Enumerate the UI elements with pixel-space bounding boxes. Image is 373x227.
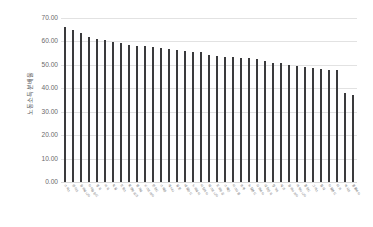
- x-label-slot: 리투아니아: [293, 183, 301, 225]
- x-label-slot: 독일: [109, 183, 117, 225]
- bar: [128, 45, 130, 182]
- bar-chart: 노동소득분배율 0.0010.0020.0030.0040.0050.0060.…: [0, 0, 373, 227]
- bar: [240, 58, 242, 182]
- bar-slot: [285, 18, 293, 182]
- bar-slot: [253, 18, 261, 182]
- bar: [296, 66, 298, 182]
- x-label-slot: 그리스: [309, 183, 317, 225]
- x-label-slot: 오스트리아: [141, 183, 149, 225]
- bar: [256, 59, 258, 182]
- x-label-slot: 스페인: [221, 183, 229, 225]
- x-label-slot: 터키: [333, 183, 341, 225]
- bar-slot: [221, 18, 229, 182]
- bar-slot: [277, 18, 285, 182]
- y-axis-tick-label: 0.00: [45, 179, 58, 186]
- x-axis-tick-labels: 스위스덴마크슬로베니아아이슬란드영국미국독일프랑스룩셈부르크벨기에오스트리아핀란…: [61, 183, 357, 225]
- bar-slot: [349, 18, 357, 182]
- bar-slot: [189, 18, 197, 182]
- x-label-slot: 뉴질랜드: [245, 183, 253, 225]
- bar: [272, 63, 274, 182]
- bar: [224, 57, 226, 182]
- bar: [312, 68, 314, 182]
- bar: [344, 93, 346, 182]
- x-label-slot: 폴란드: [301, 183, 309, 225]
- bar-slot: [173, 18, 181, 182]
- x-label-slot: 덴마크: [69, 183, 77, 225]
- bar: [280, 63, 282, 182]
- bar: [264, 61, 266, 182]
- x-label-slot: 멕시코: [341, 183, 349, 225]
- bar-slot: [205, 18, 213, 182]
- y-axis-tick-label: 40.00: [41, 85, 58, 92]
- x-label-slot: 벨기에: [133, 183, 141, 225]
- bar-slot: [333, 18, 341, 182]
- x-label-slot: 슬로베니아: [77, 183, 85, 225]
- bar: [200, 52, 202, 182]
- x-axis-tick-label: 콜롬비아: [351, 184, 360, 196]
- bar-slot: [93, 18, 101, 182]
- x-label-slot: 에스토니아: [205, 183, 213, 225]
- x-label-slot: 영국: [93, 183, 101, 225]
- bar-slot: [181, 18, 189, 182]
- x-label-slot: 미국: [101, 183, 109, 225]
- y-axis-tick-label: 10.00: [41, 155, 58, 162]
- y-axis-tick-label: 60.00: [41, 38, 58, 45]
- bar-slot: [229, 18, 237, 182]
- x-label-slot: 아이슬란드: [85, 183, 93, 225]
- x-label-slot: 라트비아: [253, 183, 261, 225]
- bar-slot: [197, 18, 205, 182]
- bar-slot: [269, 18, 277, 182]
- x-label-slot: 일본: [173, 183, 181, 225]
- bar-slot: [69, 18, 77, 182]
- bar: [152, 47, 154, 182]
- x-label-slot: 체코: [277, 183, 285, 225]
- x-label-slot: 콜롬비아: [349, 183, 357, 225]
- bar-slot: [149, 18, 157, 182]
- bar: [144, 46, 146, 182]
- bar: [136, 46, 138, 182]
- y-axis-tick-label: 30.00: [41, 108, 58, 115]
- bar-slot: [133, 18, 141, 182]
- bar: [168, 49, 170, 182]
- bar-slot: [325, 18, 333, 182]
- bar: [248, 58, 250, 182]
- bar-slot: [301, 18, 309, 182]
- x-label-slot: 노르웨이: [189, 183, 197, 225]
- bar-slot: [157, 18, 165, 182]
- x-label-slot: 슬로바키아: [285, 183, 293, 225]
- bar-slot: [85, 18, 93, 182]
- x-label-slot: 캐나다: [165, 183, 173, 225]
- bar: [104, 40, 106, 182]
- bar: [184, 51, 186, 182]
- x-label-slot: 대한민국: [261, 183, 269, 225]
- bar: [112, 42, 114, 182]
- bar-slot: [245, 18, 253, 182]
- y-axis-tick-labels: 0.0010.0020.0030.0040.0050.0060.0070.00: [30, 18, 58, 182]
- x-label-slot: 칠레: [317, 183, 325, 225]
- bar-slot: [165, 18, 173, 182]
- bar-slot: [125, 18, 133, 182]
- bar: [72, 30, 74, 182]
- bar-slot: [61, 18, 69, 182]
- bar: [304, 67, 306, 182]
- bar: [336, 70, 338, 182]
- bar-slot: [261, 18, 269, 182]
- bar-slot: [317, 18, 325, 182]
- bar-slot: [109, 18, 117, 182]
- bar-slot: [77, 18, 85, 182]
- x-label-slot: 포르투갈: [213, 183, 221, 225]
- plot-area: [61, 18, 357, 182]
- x-label-slot: 스위스: [61, 183, 69, 225]
- x-label-slot: 스웨덴: [157, 183, 165, 225]
- y-axis-tick-label: 70.00: [41, 15, 58, 22]
- bar-slot: [309, 18, 317, 182]
- bar-slot: [117, 18, 125, 182]
- bar: [64, 27, 66, 182]
- bar: [192, 52, 194, 182]
- bar: [96, 39, 98, 182]
- x-label-slot: 프랑스: [117, 183, 125, 225]
- bar: [208, 55, 210, 182]
- x-label-slot: 이탈리아: [197, 183, 205, 225]
- x-label-slot: 이스라엘: [229, 183, 237, 225]
- x-label-slot: 핀란드: [149, 183, 157, 225]
